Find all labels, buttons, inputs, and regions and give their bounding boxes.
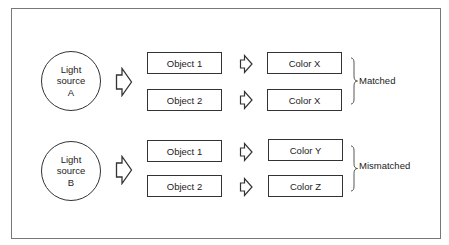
diagram-frame [11,8,441,239]
object-1-box: Object 1 [147,52,222,74]
big-arrow-right-icon [115,155,133,185]
mismatch-status-label: Mismatched [359,160,410,171]
small-arrow-right-icon [239,54,254,74]
match-status-label: Matched [359,75,395,86]
color-result-box: Color X [267,52,342,74]
small-arrow-right-icon [239,177,254,197]
color-result-box: Color Y [268,139,343,161]
light-source-b: Light source B [41,141,101,201]
object-1-box: Object 1 [147,140,222,162]
object-2-box: Object 2 [147,89,222,111]
small-arrow-right-icon [239,142,254,162]
light-source-a: Light source A [41,51,101,111]
color-result-box: Color X [267,89,342,111]
color-result-box: Color Z [268,175,343,197]
small-arrow-right-icon [239,90,254,110]
object-2-box: Object 2 [147,175,222,197]
right-brace-icon [350,57,359,105]
right-brace-icon [350,145,359,192]
big-arrow-right-icon [115,67,133,97]
